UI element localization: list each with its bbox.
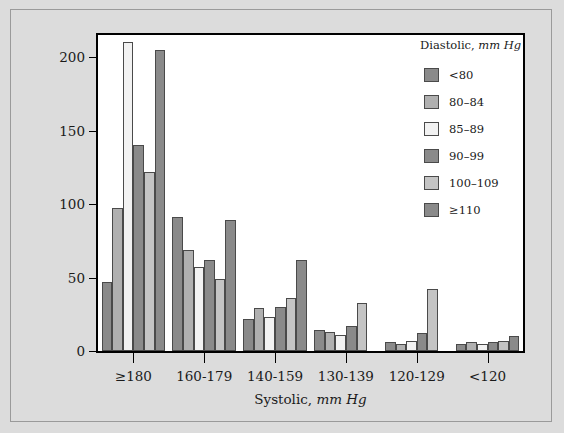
y-axis-tick-label: 100 (59, 196, 85, 212)
bar (396, 344, 407, 351)
y-axis-tick-label: 0 (76, 343, 85, 359)
legend-swatch (424, 203, 439, 217)
bar (155, 50, 166, 351)
legend-item: 90–99 (424, 142, 529, 169)
legend-item: ≥110 (424, 196, 529, 223)
y-axis-tick (89, 131, 98, 132)
chart-page: 050100150200≥180160-179140-159130-139120… (0, 0, 564, 433)
bar (286, 298, 297, 351)
x-axis-tick (275, 351, 276, 363)
bar (144, 172, 155, 351)
legend-title-units: mm Hg (478, 38, 521, 52)
x-axis-title-units: mm Hg (316, 391, 366, 407)
bar (102, 282, 113, 351)
bar (509, 336, 520, 351)
y-axis-tick (89, 204, 98, 205)
x-axis-tick-label: 130-139 (318, 368, 374, 384)
bar (194, 267, 205, 351)
y-axis-tick (89, 278, 98, 279)
x-axis-title: Systolic, mm Hg (96, 391, 525, 407)
bar (325, 332, 336, 351)
bar (264, 317, 275, 351)
x-axis-tick (488, 351, 489, 363)
y-axis-tick-label: 150 (59, 123, 85, 139)
x-axis-tick-label: <120 (469, 368, 506, 384)
legend-item: 80–84 (424, 88, 529, 115)
bar (112, 208, 123, 351)
bar (417, 333, 428, 351)
legend-swatch (424, 68, 439, 82)
legend-swatch (424, 176, 439, 190)
y-axis-tick-label: 50 (68, 270, 85, 286)
bar (172, 217, 183, 351)
legend: Diastolic, mm Hg <8080–8485–8990–99100–1… (404, 38, 529, 223)
x-axis-tick (417, 351, 418, 363)
x-axis-title-text: Systolic, (254, 391, 312, 407)
legend-item: <80 (424, 61, 529, 88)
bar (477, 344, 488, 351)
legend-swatch (424, 122, 439, 136)
bar (133, 145, 144, 351)
bar (427, 289, 438, 351)
legend-title: Diastolic, mm Hg (420, 38, 529, 52)
legend-item-label: <80 (449, 68, 473, 82)
bar (183, 250, 194, 351)
bar (456, 344, 467, 351)
legend-swatch (424, 95, 439, 109)
y-axis-tick (89, 351, 98, 352)
x-axis-tick-label: ≥180 (115, 368, 152, 384)
legend-item-label: ≥110 (449, 203, 481, 217)
bar (357, 303, 368, 352)
x-axis-tick-label: 160-179 (176, 368, 232, 384)
legend-item: 100–109 (424, 169, 529, 196)
bar (215, 279, 226, 351)
bar (296, 260, 307, 351)
bar (204, 260, 215, 351)
legend-swatch (424, 149, 439, 163)
bar (335, 335, 346, 351)
bar (123, 42, 134, 351)
x-axis-tick-label: 140-159 (247, 368, 303, 384)
x-axis-tick (346, 351, 347, 363)
legend-item: 85–89 (424, 115, 529, 142)
legend-item-label: 80–84 (449, 95, 484, 109)
x-axis-tick (204, 351, 205, 363)
bar (346, 326, 357, 351)
y-axis-tick-label: 200 (59, 49, 85, 65)
bar (385, 342, 396, 351)
x-axis-tick (133, 351, 134, 363)
bar (498, 341, 509, 351)
bar (243, 319, 254, 351)
bar (488, 342, 499, 351)
legend-item-label: 85–89 (449, 122, 484, 136)
legend-title-text: Diastolic, (420, 38, 475, 52)
bar (225, 220, 236, 351)
y-axis-tick (89, 57, 98, 58)
legend-item-label: 100–109 (449, 176, 499, 190)
bar (466, 342, 477, 351)
bar (254, 308, 265, 351)
legend-rows: <8080–8485–8990–99100–109≥110 (404, 61, 529, 223)
bar (314, 330, 325, 351)
legend-item-label: 90–99 (449, 149, 484, 163)
x-axis-tick-label: 120-129 (389, 368, 445, 384)
bar (275, 307, 286, 351)
bar (406, 341, 417, 351)
